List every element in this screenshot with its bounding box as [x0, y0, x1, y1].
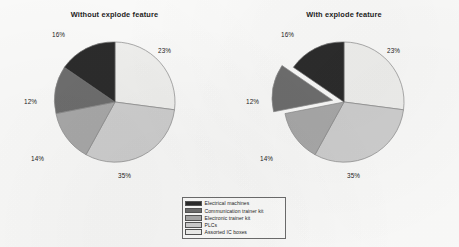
legend-swatch-electrical-machines [185, 201, 202, 207]
chart-legend: Electrical machines Communication traine… [182, 197, 286, 239]
legend-swatch-plcs [185, 222, 202, 228]
chart-panel-without-explode: Without explode feature 23% 35% 14% 12% … [0, 0, 229, 200]
pct-label-electrical-machines-left: 16% [52, 31, 65, 38]
chart-title-left: Without explode feature [0, 10, 229, 19]
legend-label-electronic-trainer-kit: Electronic trainer kit [205, 215, 251, 221]
legend-item: Communication trainer kit [185, 207, 283, 214]
pct-label-electronic-trainer-kit-right: 14% [260, 155, 273, 162]
pct-label-communication-trainer-kit-left: 12% [24, 98, 37, 105]
legend-label-assorted-ic-boxes: Assorted IC boxes [205, 229, 247, 235]
legend-label-electrical-machines: Electrical machines [205, 200, 250, 206]
pct-label-plcs-right: 35% [347, 172, 360, 179]
legend-swatch-communication-trainer-kit [185, 208, 202, 214]
pct-label-communication-trainer-kit-right: 12% [246, 98, 259, 105]
legend-label-communication-trainer-kit: Communication trainer kit [205, 208, 264, 214]
legend-swatch-electronic-trainer-kit [185, 215, 202, 221]
legend-item: Electronic trainer kit [185, 214, 283, 221]
chart-title-right: With explode feature [229, 10, 459, 19]
pct-label-electronic-trainer-kit-left: 14% [31, 155, 44, 162]
legend-item: PLCs [185, 222, 283, 229]
chart-panel-with-explode: With explode feature 23% 35% 14% 12% 16% [229, 0, 459, 200]
legend-swatch-assorted-ic-boxes [185, 229, 202, 235]
pct-label-assorted-ic-boxes-left: 23% [158, 47, 171, 54]
pct-label-assorted-ic-boxes-right: 23% [387, 47, 400, 54]
legend-label-plcs: PLCs [205, 222, 218, 228]
pct-label-electrical-machines-right: 16% [281, 31, 294, 38]
pct-label-plcs-left: 35% [118, 172, 131, 179]
legend-item: Assorted IC boxes [185, 229, 283, 236]
legend-item: Electrical machines [185, 200, 283, 207]
